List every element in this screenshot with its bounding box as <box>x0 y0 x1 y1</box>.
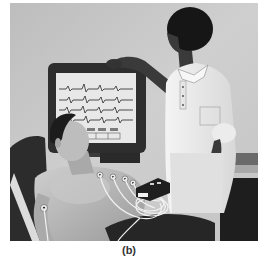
illustration-art <box>10 3 258 241</box>
figure-caption: (b) <box>0 243 258 257</box>
figure: (b) <box>0 0 258 259</box>
ecg-illustration <box>10 3 258 241</box>
